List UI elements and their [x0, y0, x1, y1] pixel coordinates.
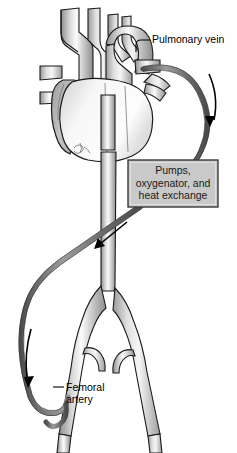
process-box-line2: oxygenator, and: [131, 177, 215, 190]
label-femoral-artery-line1: Femoral: [66, 381, 126, 393]
process-box-line1: Pumps,: [131, 164, 215, 177]
left-descending-arrow: [24, 329, 34, 388]
label-femoral-artery: Femoral artery: [66, 381, 126, 405]
right-femoral-artery: [148, 434, 162, 453]
label-femoral-artery-line2: artery: [66, 393, 126, 405]
process-box-text: Pumps, oxygenator, and heat exchange: [131, 164, 215, 202]
left-femoral-artery: [57, 434, 71, 453]
figure-canvas: Pulmonary vein Femoral artery Pumps, oxy…: [0, 0, 237, 453]
descending-aorta-upper: [101, 95, 115, 150]
right-descending-arrow: [205, 74, 216, 127]
right-internal-iliac: [113, 350, 135, 373]
left-internal-iliac: [83, 348, 105, 371]
process-box-line3: heat exchange: [131, 189, 215, 202]
label-pulmonary-vein: Pulmonary vein: [152, 34, 224, 46]
